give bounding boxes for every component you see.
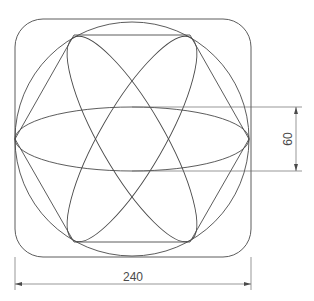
inner-hexagon: [15, 35, 249, 242]
outer-circle: [15, 22, 249, 256]
arrow-up-icon: [294, 107, 298, 114]
arrow-down-icon: [294, 164, 298, 171]
ellipse-horizontal: [15, 107, 249, 171]
technical-drawing: 60 240: [0, 0, 314, 301]
dim-240-label: 240: [123, 270, 143, 284]
dim-60-label: 60: [281, 132, 295, 146]
arrow-left-icon: [15, 282, 22, 286]
ellipse-minus-60deg: [46, 22, 218, 257]
ellipse-60deg: [46, 22, 218, 257]
arrow-right-icon: [244, 282, 251, 286]
